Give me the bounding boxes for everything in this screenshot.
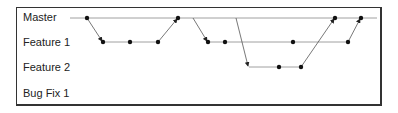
commit-dot [346,40,350,44]
commit-dot [206,40,210,44]
commit-dot [359,16,363,20]
commit-dot [85,16,89,20]
commit-dot [156,40,160,44]
commit-dot [333,16,337,20]
commit-dot [277,65,281,69]
branch-arrow [87,18,102,41]
branch-graph [0,0,398,113]
merge-arrow [158,19,177,42]
commit-dot [128,40,132,44]
commit-dot [291,40,295,44]
merge-arrow [301,19,334,67]
merge-arrow [348,19,360,42]
commit-dot [299,65,303,69]
commit-dot [176,16,180,20]
commit-dot [101,40,105,44]
branch-arrow [193,18,207,41]
commit-dot [223,40,227,44]
